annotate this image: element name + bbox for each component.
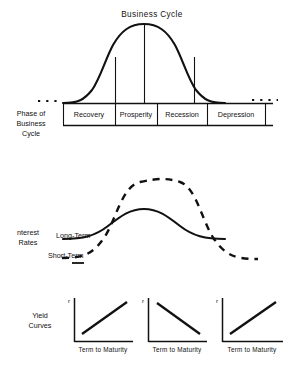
long-term-series-label: Long-Term	[56, 231, 90, 240]
yield-3-x-axis-label: Term to Maturity	[227, 346, 277, 354]
phase-label-recovery: Recovery	[74, 110, 105, 119]
yield-curve-chart-1: r Term to Maturity	[68, 297, 133, 354]
yield-curve-chart-3: r Term to Maturity	[216, 297, 283, 354]
panel-interest-rates: nterest Rates Long-Term Short-Term	[17, 179, 258, 263]
interest-rates-label-line-2: Rates	[19, 238, 38, 247]
yield-1-x-axis-label: Term to Maturity	[78, 346, 128, 354]
yield-curves-label-line-1: Yield	[32, 311, 48, 320]
yield-2-y-axis-label: r	[142, 297, 144, 304]
phase-label-recession: Recession	[165, 110, 199, 119]
side-label-line-3: Cycle	[22, 129, 40, 138]
yield-3-curve-line	[230, 302, 276, 334]
interest-rates-label-line-1: nterest	[17, 228, 39, 237]
phase-label-row: Recovery Prosperity Recession Depression	[63, 104, 273, 126]
yield-3-y-axis-label: r	[216, 297, 218, 304]
business-cycle-figure: Business Cycle Recovery Prosperity Reces…	[0, 0, 304, 371]
short-term-rate-curve	[62, 179, 258, 259]
short-term-series-label: Short-Term	[48, 251, 84, 260]
phase-label-prosperity: Prosperity	[120, 110, 153, 119]
phase-of-business-cycle-label: Phase of Business Cycle	[16, 109, 46, 138]
yield-curve-chart-2: r Term to Maturity	[142, 297, 207, 354]
yield-1-y-axis-label: r	[68, 297, 70, 304]
interest-rates-label: nterest Rates	[17, 228, 39, 247]
yield-1-curve-line	[82, 302, 127, 334]
yield-2-x-axis-label: Term to Maturity	[152, 346, 202, 354]
panel-yield-curves: Yield Curves r Term to Maturity r Term t…	[29, 297, 283, 354]
yield-2-curve-line	[157, 303, 200, 334]
side-label-line-1: Phase of	[17, 109, 45, 118]
yield-curves-label-line-2: Curves	[29, 321, 52, 330]
business-cycle-title: Business Cycle	[121, 10, 183, 19]
yield-curves-label: Yield Curves	[29, 311, 52, 330]
phase-label-depression: Depression	[218, 110, 254, 119]
side-label-line-2: Business	[16, 119, 46, 128]
panel-business-cycle: Business Cycle Recovery Prosperity Reces…	[16, 10, 278, 138]
